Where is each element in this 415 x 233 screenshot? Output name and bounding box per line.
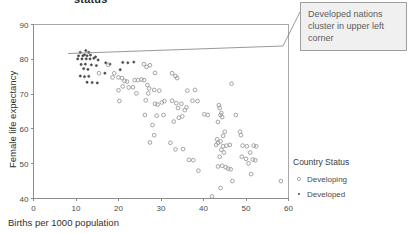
data-point (144, 99, 148, 103)
data-point (239, 133, 243, 137)
data-point (249, 172, 253, 176)
annotation-callout: Developed nations cluster in upper left … (300, 2, 407, 51)
x-axis-title: Births per 1000 population (8, 217, 119, 228)
y-tick-label: 90 (20, 21, 29, 30)
data-point (148, 63, 152, 67)
data-point (112, 71, 116, 75)
y-tick-label: 60 (20, 125, 29, 134)
data-point (219, 186, 223, 190)
data-point (83, 68, 85, 70)
y-tick-label: 80 (20, 55, 29, 64)
x-tick-label: 50 (242, 204, 251, 213)
data-point (147, 87, 151, 91)
data-point (86, 81, 88, 83)
data-point (180, 102, 184, 106)
data-point (84, 63, 86, 65)
data-point (97, 71, 101, 75)
data-point (80, 63, 82, 65)
data-point (176, 106, 180, 110)
data-point (170, 71, 174, 75)
data-point (135, 92, 139, 96)
legend-title: Country Status (293, 157, 349, 167)
data-points-layer (77, 49, 283, 198)
data-point (127, 86, 131, 90)
data-point (133, 61, 135, 63)
data-point (247, 162, 251, 166)
data-point (89, 54, 91, 56)
filled-dot-icon (293, 193, 305, 196)
x-tick-label: 20 (114, 204, 123, 213)
data-point (152, 133, 156, 137)
data-point (77, 58, 79, 60)
legend-item-label: Developed (305, 190, 345, 199)
data-point (218, 155, 222, 159)
data-point (216, 120, 220, 124)
data-point (172, 120, 176, 124)
data-point (169, 141, 173, 145)
y-tick-label: 70 (20, 90, 29, 99)
data-point (231, 179, 235, 183)
data-point (85, 58, 87, 60)
data-point (121, 85, 125, 89)
data-point (87, 68, 89, 70)
legend-item-label: Developing (305, 175, 347, 184)
data-point (83, 76, 85, 78)
data-point (146, 92, 150, 96)
open-circle-icon (293, 177, 305, 181)
legend: Country Status Developing Developed (293, 157, 349, 203)
x-tick-label: 10 (72, 204, 81, 213)
data-point (104, 72, 106, 74)
data-point (181, 147, 185, 151)
axes-layer: 4050607080900102030405060 (20, 21, 294, 213)
x-tick-label: 40 (199, 204, 208, 213)
data-point (245, 144, 249, 148)
data-point (240, 155, 244, 159)
data-point (244, 157, 248, 161)
data-point (234, 113, 238, 117)
data-point (196, 99, 200, 103)
data-point (180, 115, 184, 119)
data-point (79, 75, 81, 77)
annotation-text: Developed nations cluster in upper left … (308, 9, 384, 43)
data-point (221, 134, 225, 138)
data-point (111, 76, 115, 80)
data-point (97, 59, 99, 61)
scatterplot-figure: status 4050607080900102030405060 Births … (0, 0, 415, 233)
legend-item-developing[interactable]: Developing (293, 173, 349, 185)
data-point (191, 99, 195, 103)
x-tick-label: 30 (157, 204, 166, 213)
y-axis-title: Female life expectancy (7, 71, 18, 168)
data-point (143, 113, 147, 117)
data-point (152, 88, 156, 92)
data-point (91, 81, 93, 83)
data-point (81, 58, 83, 60)
data-point (90, 64, 92, 66)
data-point (223, 130, 227, 134)
data-point (86, 55, 88, 57)
data-point (241, 144, 245, 148)
data-point (191, 158, 195, 162)
legend-item-developed[interactable]: Developed (293, 188, 349, 200)
data-point (187, 158, 191, 162)
x-tick-label: 60 (284, 204, 293, 213)
data-point (216, 165, 220, 169)
data-point (162, 113, 166, 117)
data-point (93, 57, 95, 59)
data-point (85, 49, 87, 51)
data-point (118, 99, 122, 103)
data-point (148, 141, 152, 145)
x-tick-label: 0 (31, 204, 36, 213)
data-point (95, 64, 97, 66)
data-point (222, 151, 226, 155)
data-point (248, 151, 252, 155)
data-point (210, 195, 214, 199)
data-point (186, 89, 190, 93)
data-point (119, 69, 121, 71)
y-tick-label: 50 (20, 160, 29, 169)
data-point (77, 55, 79, 57)
data-point (127, 62, 129, 64)
data-point (170, 99, 174, 103)
data-point (157, 89, 161, 93)
data-point (89, 58, 91, 60)
data-point (117, 88, 121, 92)
